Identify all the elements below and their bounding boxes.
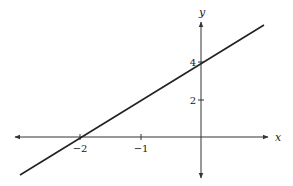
chart-svg: −2 −1 2 4 x y (0, 0, 293, 186)
x-tick-label-minus-1: −1 (134, 143, 149, 154)
x-tick-label-minus-2: −2 (73, 143, 88, 154)
x-axis-label: x (275, 131, 282, 144)
y-axis-label: y (198, 6, 206, 19)
y-tick-label-4: 4 (190, 57, 196, 68)
line-chart: −2 −1 2 4 x y (0, 0, 293, 186)
y-tick-label-2: 2 (190, 95, 196, 106)
